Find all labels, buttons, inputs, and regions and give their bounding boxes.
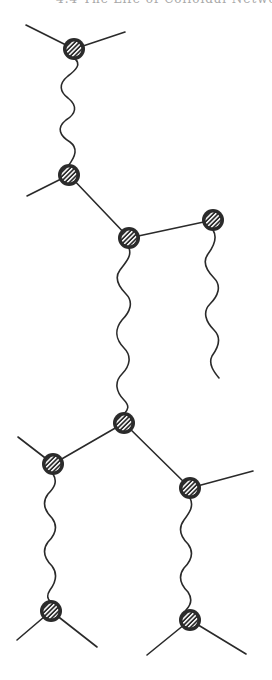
chain-n7-n9 xyxy=(181,498,192,610)
junction-node-icon xyxy=(63,38,85,60)
wavy-chains xyxy=(45,58,219,610)
junction-node-icon xyxy=(118,227,140,249)
bond-n5-n7 xyxy=(124,423,190,488)
junction-node-icon xyxy=(42,453,64,475)
chain-n6-n8 xyxy=(45,474,56,602)
junction-node-icon xyxy=(113,412,135,434)
chain-n3-n5 xyxy=(117,248,130,414)
chain-n1-n2 xyxy=(60,58,78,166)
junction-node-icon xyxy=(202,209,224,231)
bond-n5-n6 xyxy=(53,423,124,464)
chain-n4-free xyxy=(205,230,219,378)
straight-bonds xyxy=(17,25,253,655)
bond-n2-n3 xyxy=(69,175,129,238)
polymer-network-diagram xyxy=(0,0,272,680)
bond-n3-n4 xyxy=(129,220,213,238)
junction-node-icon xyxy=(179,477,201,499)
junction-nodes xyxy=(40,38,224,631)
junction-node-icon xyxy=(58,164,80,186)
junction-node-icon xyxy=(179,609,201,631)
junction-node-icon xyxy=(40,600,62,622)
